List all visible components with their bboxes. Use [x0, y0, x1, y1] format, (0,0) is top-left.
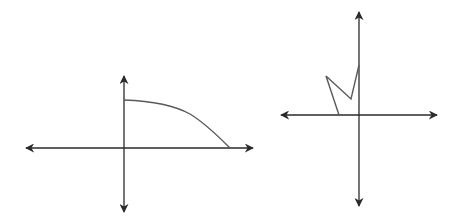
left-graph — [26, 76, 253, 212]
diagram-canvas — [0, 0, 457, 222]
left-curve — [124, 100, 230, 148]
right-zigzag-line — [326, 65, 359, 115]
right-graph — [281, 12, 437, 206]
